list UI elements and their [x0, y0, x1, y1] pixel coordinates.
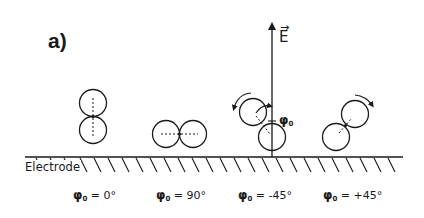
dipole-vertical	[80, 90, 107, 144]
vector-arrow-icon: →	[280, 21, 289, 34]
phi-symbol: φ	[238, 188, 247, 202]
angle-subscript: 0	[288, 120, 293, 128]
dipole-orientation-diagram: a) → E φ0 Electrode φ0 = 0° φ0 = 90° φ0 …	[0, 0, 424, 218]
dipole-tilted-minus45	[234, 93, 286, 151]
phi-subscript: 0	[332, 195, 337, 203]
angle-label-90: φ0 = 90°	[156, 188, 206, 203]
dipole-horizontal	[153, 121, 207, 148]
phi-symbol: φ	[73, 188, 82, 202]
electrode-label: Electrode	[25, 160, 81, 174]
panel-label: a)	[48, 29, 67, 53]
phi-symbol: φ	[323, 188, 332, 202]
angle-value: = -45°	[256, 189, 292, 202]
angle-value: = 0°	[91, 189, 116, 202]
angle-annotation: φ0	[279, 113, 293, 128]
electrode-hatching	[36, 158, 395, 172]
electrode-surface	[25, 157, 403, 172]
angle-value: = 90°	[174, 189, 206, 202]
angle-value: = +45°	[341, 189, 382, 202]
angle-label-plus45: φ0 = +45°	[323, 188, 382, 203]
angle-symbol: φ	[279, 113, 288, 127]
phi-subscript: 0	[165, 195, 170, 203]
phi-subscript: 0	[247, 195, 252, 203]
angle-label-minus45: φ0 = -45°	[238, 188, 292, 203]
electric-field-label: → E	[279, 28, 288, 46]
dipole-tilted-plus45	[323, 95, 373, 151]
phi-subscript: 0	[82, 195, 87, 203]
phi-symbol: φ	[156, 188, 165, 202]
angle-label-0: φ0 = 0°	[73, 188, 116, 203]
